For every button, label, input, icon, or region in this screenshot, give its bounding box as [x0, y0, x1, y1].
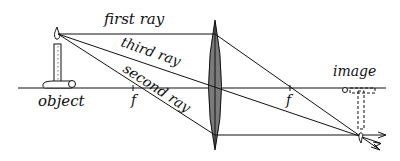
candle-body [54, 44, 61, 84]
label-object: object [38, 92, 86, 110]
image-handle [343, 88, 348, 93]
label-focal-left: f [130, 92, 139, 108]
label-first-ray: first ray [103, 10, 165, 28]
label-focal-right: f [285, 92, 294, 108]
candle-flame [54, 27, 59, 39]
lens-ray-diagram: first ray third ray second ray object f … [0, 0, 400, 161]
candle-handle [69, 81, 76, 88]
object-candle [43, 27, 76, 88]
image-candle [350, 88, 375, 129]
converging-lens [209, 20, 222, 150]
image-flame [359, 133, 363, 143]
label-image: image [333, 63, 376, 79]
